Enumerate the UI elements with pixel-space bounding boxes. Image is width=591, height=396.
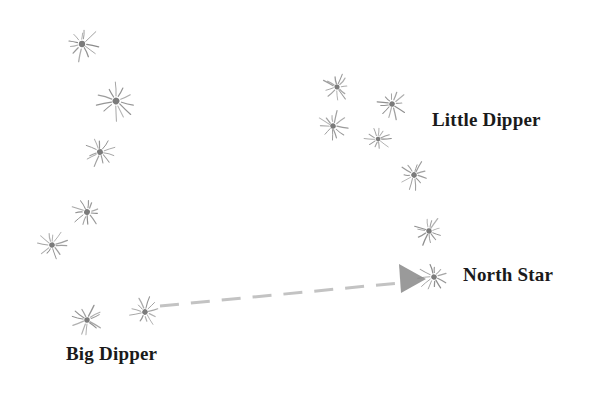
star-ray [103,154,109,163]
star-ray [340,89,345,95]
star-ray [341,86,347,88]
star-ray [81,309,86,316]
star-ray [69,41,78,43]
star-ray [138,305,143,309]
star-ray [117,88,124,96]
star-ray [87,44,99,46]
star-ray [121,92,131,102]
star-core [410,171,418,179]
star-ray [88,215,98,224]
star-icon [92,79,140,126]
star-ray [389,94,394,100]
star-ray [336,118,345,124]
star-ray [402,175,411,183]
star-ray [416,178,420,183]
star-ray [337,122,348,132]
star-icon [69,30,99,61]
star-icon [68,196,103,229]
sky-canvas [0,0,591,396]
star-ray [79,49,82,62]
constellation-big-dipper [33,30,165,336]
star-ray [101,156,103,163]
star-ray [83,217,86,225]
star-ray [336,91,339,100]
star-ray [394,106,405,112]
star-ray [52,232,63,241]
star-ray [333,130,338,138]
star-ray [70,45,78,47]
star-ray [422,234,429,245]
pointer-dashed-line [160,283,399,306]
star-core [334,84,340,90]
star-ray [385,97,391,101]
label-little-dipper: Little Dipper [432,110,541,129]
star-ray [119,104,132,115]
star-ray [136,298,146,307]
star-ray [432,281,436,286]
star-ray [431,233,436,240]
star-ray [82,33,83,39]
star-ray [393,92,397,100]
star-ray [429,234,430,242]
star-ray [420,269,430,275]
star-ray [380,131,383,137]
star-ray [433,228,440,230]
star-icon [414,218,441,246]
star-ray [84,48,88,57]
star-ray [418,173,426,181]
star-ray [326,88,334,90]
star-ray [378,128,380,136]
star-core [79,41,85,47]
star-icon [395,155,433,193]
star-ray [364,137,374,140]
star-ray [377,142,380,148]
star-ray [375,142,377,147]
star-icon [363,126,393,150]
star-ray [336,127,344,136]
star-ray [92,207,98,212]
star-ray [144,317,149,322]
star-ray [92,156,101,166]
star-ray [436,269,440,275]
star-core [96,148,103,155]
star-ray [107,89,116,97]
star-icon [33,225,72,264]
star-ray [90,203,92,208]
star-ray [55,247,60,254]
star-ray [104,147,115,150]
star-ray [104,103,112,112]
star-ray [339,89,346,100]
star-ray [83,30,84,39]
label-big-dipper: Big Dipper [66,344,157,363]
star-ray [98,91,111,103]
star-ray [94,139,98,149]
star-ray [404,172,409,177]
label-north-star: North Star [463,265,553,284]
star-ray [427,281,433,289]
star-core [426,228,432,234]
star-ray [438,278,446,283]
star-ray [369,134,375,137]
star-ray [139,315,144,320]
constellation-north-star [413,260,450,296]
star-ray [407,165,412,171]
star-ray [335,77,337,84]
star-ray [86,32,96,42]
star-ray [149,312,155,317]
star-ray [89,305,94,316]
star-icon [413,260,450,296]
star-ray [418,233,426,237]
star-ray [41,234,50,245]
star-ray [91,211,97,215]
star-ray [101,141,110,149]
constellation-little-dipper [317,74,441,246]
star-ray [330,116,334,122]
star-ray [82,324,86,335]
star-ray [74,34,79,40]
star-ray [387,108,393,118]
star-icon [323,74,349,103]
star-icon [71,304,102,336]
star-ray [396,101,402,106]
star-core [83,208,91,216]
star-ray [75,213,83,224]
